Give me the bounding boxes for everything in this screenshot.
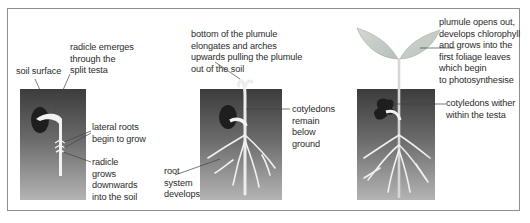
seed-icon <box>219 105 237 129</box>
soil-block-2 <box>200 89 282 200</box>
label-soil-surface: soil surface <box>16 66 61 78</box>
soil-block-1 <box>20 89 86 200</box>
label-radicle-grows: radicle grows downwards into the soil <box>92 157 138 203</box>
leaf-left-icon <box>357 28 398 59</box>
label-cotyledons-wither: cotyledons wither within the testa <box>446 98 515 121</box>
stage-2-illustration <box>200 80 282 200</box>
label-root-system: root system develops <box>164 166 200 201</box>
leaf-right-icon <box>400 30 440 59</box>
label-cotyledons-remain: cotyledons remain below ground <box>292 104 335 150</box>
label-plumule-opens: plumule opens out, develops chlorophyll … <box>439 17 520 87</box>
label-radicle-emerges: radicle emerges through the split testa <box>70 42 134 77</box>
stage-1-illustration <box>20 89 86 200</box>
label-lateral-roots: lateral roots begin to grow <box>92 122 146 145</box>
stage-3-illustration <box>357 28 440 200</box>
label-plumule-arches: bottom of the plumule elongates and arch… <box>191 29 302 75</box>
soil-block-3 <box>357 89 435 200</box>
